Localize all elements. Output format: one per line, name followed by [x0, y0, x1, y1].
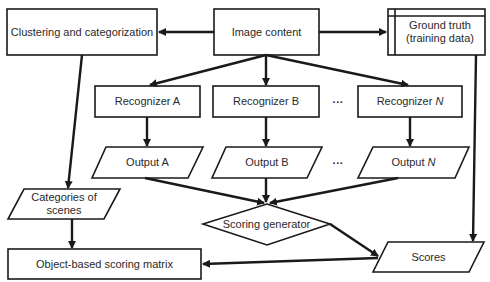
- categories-parallelogram: [8, 189, 120, 219]
- recognizer-a-box: [95, 86, 200, 117]
- output-a-parallelogram: [92, 147, 203, 178]
- output-n-parallelogram: [358, 147, 469, 178]
- edge-image-to-recognizer-a: [150, 55, 266, 85]
- ground-truth-datastore: [388, 9, 485, 55]
- flowchart-canvas: [0, 0, 490, 282]
- recognizer-b-box: [213, 86, 319, 117]
- object-matrix-box: [8, 249, 201, 279]
- edge-clustering-to-categories: [68, 55, 82, 188]
- edge-output-a-to-scoring: [145, 178, 264, 203]
- output-b-parallelogram: [212, 147, 322, 178]
- image-content-box: [214, 9, 319, 55]
- flowchart: Clustering and categorization Image cont…: [0, 0, 490, 282]
- scoring-generator-diamond: [203, 204, 330, 245]
- edge-scoring-to-scores: [330, 224, 378, 256]
- edge-output-n-to-scoring: [270, 178, 398, 203]
- edge-image-to-recognizer-n: [266, 55, 408, 85]
- recognizer-n-box: [358, 86, 462, 117]
- edge-groundtruth-to-scores: [473, 55, 476, 241]
- scores-parallelogram: [373, 242, 484, 272]
- clustering-box: [7, 9, 157, 55]
- edge-scores-to-matrix: [203, 258, 378, 264]
